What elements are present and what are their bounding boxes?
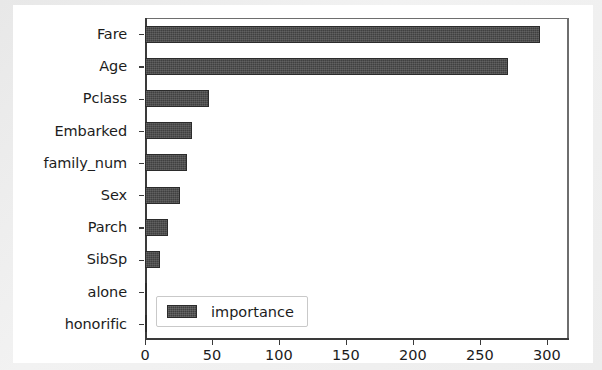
x-tick-label-50: 50 <box>203 347 221 363</box>
bar-rect <box>145 315 147 332</box>
x-tick-label-0: 0 <box>140 347 149 363</box>
figure-container: FareAgePclassEmbarkedfamily_numSexParchS… <box>0 0 602 370</box>
y-tick-mark <box>139 34 144 35</box>
x-tick-label-200: 200 <box>399 347 427 363</box>
y-tick-mark <box>139 163 144 164</box>
bar-sibsp <box>145 243 160 275</box>
y-tick-mark <box>139 131 144 132</box>
x-tick-label-150: 150 <box>332 347 360 363</box>
y-tick-label-sex: Sex <box>101 179 127 211</box>
y-tick-label-family_num: family_num <box>43 147 127 179</box>
chart-canvas: FareAgePclassEmbarkedfamily_numSexParchS… <box>14 6 592 362</box>
x-tick-label-300: 300 <box>533 347 561 363</box>
plot-area: importance <box>145 18 567 340</box>
x-tick-mark <box>480 340 481 345</box>
legend-swatch-icon <box>167 305 197 318</box>
y-tick-label-alone: alone <box>88 276 127 308</box>
x-tick-label-100: 100 <box>265 347 293 363</box>
y-tick-mark <box>139 99 144 100</box>
y-tick-label-fare: Fare <box>97 18 127 50</box>
x-tick-mark <box>145 340 146 345</box>
bar-pclass <box>145 82 209 114</box>
x-tick-mark <box>346 340 347 345</box>
y-tick-mark <box>139 195 144 196</box>
y-axis-labels: FareAgePclassEmbarkedfamily_numSexParchS… <box>14 18 139 340</box>
bar-rect <box>145 58 508 75</box>
legend-label: importance <box>211 304 294 320</box>
bar-rect <box>145 122 192 139</box>
bar-family_num <box>145 147 187 179</box>
bar-rect <box>145 26 540 43</box>
x-tick-mark <box>212 340 213 345</box>
y-tick-mark <box>139 66 144 67</box>
y-tick-mark <box>139 227 144 228</box>
bar-age <box>145 50 508 82</box>
bar-sex <box>145 179 180 211</box>
y-tick-label-honorific: honorific <box>65 308 127 340</box>
y-tick-label-parch: Parch <box>88 211 127 243</box>
y-tick-mark <box>139 292 144 293</box>
bar-fare <box>145 18 540 50</box>
bar-rect <box>145 154 187 171</box>
bar-rect <box>145 283 147 300</box>
y-tick-mark <box>139 260 144 261</box>
bar-rect <box>145 90 209 107</box>
bar-parch <box>145 211 168 243</box>
y-tick-label-embarked: Embarked <box>54 115 127 147</box>
y-tick-label-age: Age <box>99 50 127 82</box>
y-tick-label-pclass: Pclass <box>83 82 127 114</box>
x-tick-label-250: 250 <box>466 347 494 363</box>
bar-rect <box>145 187 180 204</box>
bar-alone <box>145 276 147 308</box>
bar-rect <box>145 219 168 236</box>
bar-embarked <box>145 115 192 147</box>
x-tick-mark <box>279 340 280 345</box>
chart-legend[interactable]: importance <box>156 296 308 327</box>
bar-rect <box>145 251 160 268</box>
y-tick-label-sibsp: SibSp <box>87 243 127 275</box>
y-tick-mark <box>139 324 144 325</box>
x-tick-mark <box>413 340 414 345</box>
x-tick-mark <box>547 340 548 345</box>
axis-spine-right <box>567 18 568 340</box>
axis-spine-bottom <box>145 338 569 340</box>
bar-honorific <box>145 308 147 340</box>
